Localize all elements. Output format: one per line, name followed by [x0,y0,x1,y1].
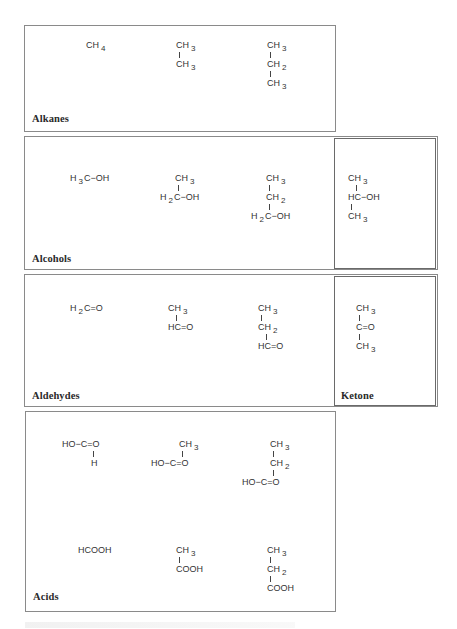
formula-line: CH3 [168,303,193,313]
molecule-propanal: CH3CH2HC=O [258,303,283,351]
formula-line: CH3 [151,439,198,449]
molecule-methane: CH4 [86,40,105,50]
formula-line [348,202,380,211]
molecule-formic-acid-condensed: HCOOH [78,545,112,555]
formula-line: CH3 [267,545,294,555]
single-bond-line [270,52,271,58]
molecule-acetic-acid-structural: CH3HO−C=O [151,439,198,468]
single-bond-line [93,451,94,457]
alkanes-label: Alkanes [32,113,69,124]
formula-line [267,555,294,564]
alcohols-label: Alcohols [32,253,71,264]
formula-line: H2C=O [70,303,103,313]
formula-line: CH3 [251,173,290,183]
molecule-formaldehyde: H2C=O [70,303,103,313]
formula-line [258,313,283,322]
single-bond-line [270,71,271,77]
formula-line: CH2 [267,59,286,69]
formula-line: CH3 [176,59,195,69]
formula-line: CH4 [86,40,105,50]
single-bond-line [178,185,179,191]
single-bond-line [273,470,274,476]
molecule-methanol: H3C−OH [70,173,109,183]
molecule-formic-acid-structural: HO−C=OH [62,439,100,468]
single-bond-line [269,204,270,210]
single-bond-line [270,576,271,582]
formula-line: CH3 [267,78,286,88]
formula-line: CH2 [251,192,290,202]
formula-line: HO−C=O [242,477,289,487]
formula-line: CH3 [356,303,375,313]
formula-line: CH3 [258,303,283,313]
molecule-propanoic-acid-structural: CH3CH2HO−C=O [242,439,289,487]
molecule-acetaldehyde: CH3HC=O [168,303,193,332]
single-bond-line [359,334,360,340]
molecule-propane: CH3CH2CH3 [267,40,286,88]
formula-line: CH3 [348,173,380,183]
molecule-ethanol: CH3H2C−OH [160,173,199,202]
formula-line: H2C−OH [251,211,290,221]
formula-line: CH2 [242,458,289,468]
formula-line: C=O [356,322,375,332]
formula-line: CH2 [258,322,283,332]
formula-line: HO−C=O [151,458,198,468]
formula-line: CH3 [176,40,195,50]
formula-line: HCOOH [78,545,112,555]
formula-line [168,313,193,322]
single-bond-line [176,315,177,321]
formula-line [151,449,198,458]
formula-line: HC=O [258,341,283,351]
molecule-propanoic-acid-condensed: CH3CH2COOH [267,545,294,593]
aldehydes-label: Aldehydes [32,390,80,401]
formula-line [356,332,375,341]
formula-line: H [62,458,100,468]
single-bond-line [270,557,271,563]
formula-line [176,555,203,564]
single-bond-line [266,334,267,340]
molecule-propanol: CH3CH2H2C−OH [251,173,290,221]
single-bond-line [182,451,183,457]
formula-line: CH3 [176,545,203,555]
single-bond-line [356,185,357,191]
single-bond-line [179,557,180,563]
formula-line: CH3 [242,439,289,449]
single-bond-line [179,52,180,58]
formula-line [242,468,289,477]
formula-line: H3C−OH [70,173,109,183]
molecule-acetone: CH3C=OCH3 [356,303,375,351]
formula-line: HC=O [168,322,193,332]
acids-label: Acids [33,591,59,602]
formula-line: CH3 [348,211,380,221]
formula-line: CH3 [160,173,199,183]
ketone-label: Ketone [341,390,374,401]
formula-line: COOH [176,564,203,574]
single-bond-line [261,315,262,321]
molecule-acetic-acid-condensed: CH3COOH [176,545,203,574]
single-bond-line [359,315,360,321]
single-bond-line [351,204,352,210]
single-bond-line [273,451,274,457]
molecule-ethane: CH3CH3 [176,40,195,69]
cropped-caption-remnant [25,622,295,628]
formula-line: CH2 [267,564,294,574]
formula-line [258,332,283,341]
ketone-box [334,276,436,406]
formula-line: CH3 [356,341,375,351]
formula-line: H2C−OH [160,192,199,202]
formula-line: COOH [267,583,294,593]
formula-line [62,449,100,458]
formula-line: HO−C=O [62,439,100,449]
formula-line: HC−OH [348,192,380,202]
single-bond-line [269,185,270,191]
formula-line [242,449,289,458]
formula-line: CH3 [267,40,286,50]
formula-line [267,574,294,583]
molecule-isopropanol: CH3HC−OHCH3 [348,173,380,221]
